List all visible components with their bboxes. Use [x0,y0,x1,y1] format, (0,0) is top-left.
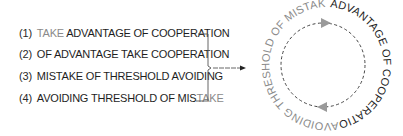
cycle-text-dark: ADVANTAGE OF COOPERATION [0,0,394,131]
arrowhead-top-icon [321,18,331,28]
right-arrow-icon [213,66,246,71]
arrowhead-bottom-icon [317,102,327,112]
bracket [196,34,211,101]
cycle-diagram: ADVANTAGE OF COOPERATION AVOIDING THRESH… [0,0,403,136]
dashed-cycle-circle [281,23,365,107]
cycle-text-gray: AVOIDING THRESHOLD OF MISTAKE [0,0,339,133]
